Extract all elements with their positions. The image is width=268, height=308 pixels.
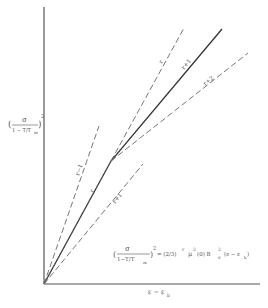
dashed-line-r-plus-1-lower bbox=[44, 164, 143, 284]
label-r-plus-2: r+2 bbox=[201, 74, 215, 87]
svg-text:2: 2 bbox=[193, 247, 196, 252]
equation: ( σ 1−T/T m ) 2 = (2/3) r μ 2 (0) B 0 2 … bbox=[113, 245, 249, 265]
svg-text:(ε − ε: (ε − ε bbox=[224, 251, 240, 257]
svg-text:ε − ε: ε − ε bbox=[148, 288, 165, 296]
svg-text:(: ( bbox=[113, 250, 116, 259]
label-r-lower: r bbox=[88, 187, 96, 193]
label-r-minus-1: r−1 bbox=[73, 163, 83, 176]
svg-text:): ) bbox=[247, 251, 249, 257]
dashed-line-r-plus-2 bbox=[111, 53, 248, 161]
y-axis-label: ( σ 1 − T/T m ) 2 bbox=[8, 113, 44, 135]
svg-text:): ) bbox=[38, 119, 42, 129]
svg-text:(: ( bbox=[8, 119, 12, 129]
svg-text:μ: μ bbox=[188, 250, 192, 258]
svg-text:2: 2 bbox=[153, 245, 156, 251]
svg-text:1−T/T: 1−T/T bbox=[117, 256, 135, 262]
label-r-plus-1-lower: r+1 bbox=[110, 191, 123, 204]
svg-text:2: 2 bbox=[41, 113, 44, 119]
svg-text:): ) bbox=[150, 250, 153, 259]
svg-text:r: r bbox=[182, 247, 185, 252]
svg-text:b: b bbox=[167, 293, 170, 298]
dashed-line-r-minus-1 bbox=[44, 126, 99, 284]
dashed-line-r-extension bbox=[111, 28, 184, 161]
svg-text:2: 2 bbox=[218, 247, 221, 252]
svg-text:1 − T/T: 1 − T/T bbox=[12, 127, 32, 133]
svg-text:σ: σ bbox=[125, 245, 130, 253]
svg-text:= (2/3): = (2/3) bbox=[157, 251, 177, 257]
svg-text:σ: σ bbox=[22, 116, 27, 124]
label-r-upper: r bbox=[157, 58, 165, 64]
svg-text:(0) B: (0) B bbox=[197, 251, 211, 257]
solid-line-r-to-r-plus-1 bbox=[44, 29, 222, 284]
diagram-canvas: r r+1 r+2 r−1 r r+1 ( σ 1 − T/T m ) 2 ( … bbox=[0, 0, 268, 308]
svg-text:m: m bbox=[34, 130, 38, 135]
svg-text:0: 0 bbox=[218, 255, 221, 260]
svg-text:m: m bbox=[143, 260, 147, 265]
x-axis-label: ε − ε b bbox=[148, 288, 170, 298]
label-r-plus-1-upper: r+1 bbox=[179, 57, 192, 70]
